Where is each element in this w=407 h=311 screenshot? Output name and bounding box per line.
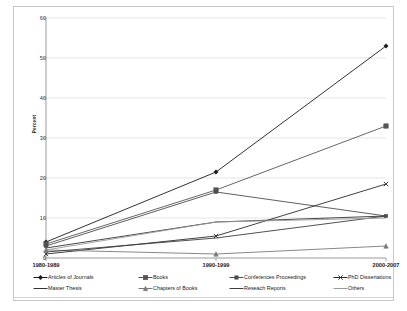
legend-item-articles-of-journals[interactable]: Articles of Journals — [33, 272, 94, 283]
x-tick-label: 1990-1999 — [176, 262, 256, 268]
legend-marker-icon — [138, 273, 153, 282]
legend-marker-icon — [229, 273, 244, 282]
legend-marker-icon — [333, 273, 348, 282]
legend-marker-icon — [138, 284, 153, 293]
legend-label: Others — [348, 284, 364, 293]
legend-item-master-thesis[interactable]: Master Thesis — [33, 283, 82, 294]
legend-item-phd-dissertations[interactable]: PhD Dissertations — [333, 272, 391, 283]
chart-figure: Percent 0102030405060 1980-19891990-1999… — [0, 0, 407, 311]
legend-marker-icon — [333, 284, 348, 293]
legend-row: Master ThesisChapters of BooksReseach Re… — [33, 283, 385, 294]
legend-marker-icon — [33, 284, 48, 293]
legend-item-reseach-reports[interactable]: Reseach Reports — [229, 283, 286, 294]
legend-label: Chapters of Books — [153, 284, 197, 293]
x-tick-label: 2000-2007 — [346, 262, 407, 268]
legend-item-books[interactable]: Books — [138, 272, 168, 283]
legend-marker-icon — [33, 273, 48, 282]
legend-separator — [14, 297, 393, 298]
series-markers — [44, 44, 388, 256]
legend-marker-icon — [229, 284, 244, 293]
legend-label: Master Thesis — [48, 284, 82, 293]
legend-label: Conferences Proceedings — [244, 273, 306, 282]
legend-item-chapters-of-books[interactable]: Chapters of Books — [138, 283, 197, 294]
x-tick-label: 1980-1989 — [6, 262, 86, 268]
plot-area: Percent 0102030405060 1980-19891990-1999… — [0, 0, 407, 311]
legend-item-conferences-proceedings[interactable]: Conferences Proceedings — [229, 272, 306, 283]
legend-label: PhD Dissertations — [348, 273, 391, 282]
axis-lines — [46, 18, 386, 261]
legend-item-others[interactable]: Others — [333, 283, 364, 294]
legend-label: Books — [153, 273, 168, 282]
legend-label: Reseach Reports — [244, 284, 286, 293]
chart-legend: Articles of JournalsBooksConferences Pro… — [33, 272, 385, 296]
legend-row: Articles of JournalsBooksConferences Pro… — [33, 272, 385, 283]
legend-label: Articles of Journals — [48, 273, 94, 282]
series-lines — [46, 46, 386, 254]
